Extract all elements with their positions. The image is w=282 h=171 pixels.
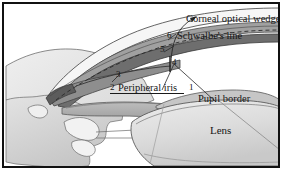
callout-number-4: 4 <box>172 58 177 67</box>
callout-number-6: 6 <box>167 31 172 40</box>
callout-number-1: 1 <box>189 83 194 92</box>
eye-anatomy-figure: Corneal optical wedge 6 Schwalbe's line … <box>0 0 282 171</box>
label-peripheral-iris: Peripheral iris <box>118 82 177 93</box>
label-underline-peripheral-iris <box>110 93 184 94</box>
label-schwalbes-line: Schwalbe's line <box>177 30 242 41</box>
figure-frame-border: Corneal optical wedge 6 Schwalbe's line … <box>2 2 280 168</box>
label-lens: Lens <box>210 125 231 136</box>
callout-number-2: 2 <box>110 83 115 92</box>
callout-number-3: 3 <box>116 70 121 79</box>
label-corneal-optical-wedge: Corneal optical wedge <box>186 13 280 24</box>
label-pupil-border: Pupil border <box>198 93 250 104</box>
callout-number-5: 5 <box>160 45 165 54</box>
